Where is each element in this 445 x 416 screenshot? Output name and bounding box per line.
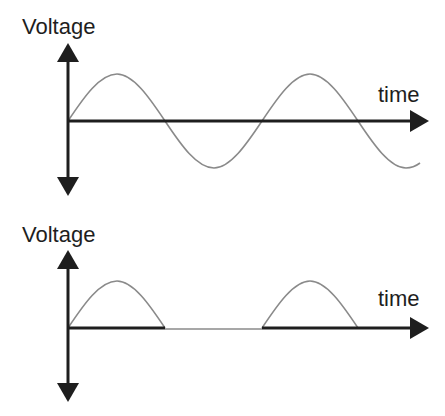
- bottom-panel: [57, 250, 429, 402]
- bottom-x-axis-arrow-icon: [410, 317, 429, 339]
- bottom-y-axis-up-arrow-icon: [57, 250, 79, 269]
- top-panel: [57, 43, 429, 196]
- top-y-axis-up-arrow-icon: [57, 43, 79, 62]
- bottom-rectified-hump-2: [262, 281, 358, 328]
- top-y-axis-down-arrow-icon: [57, 177, 79, 196]
- bottom-y-axis-down-arrow-icon: [57, 383, 79, 402]
- top-x-axis-arrow-icon: [410, 110, 429, 132]
- waveform-diagram: [0, 0, 445, 416]
- bottom-rectified-hump-1: [68, 281, 165, 328]
